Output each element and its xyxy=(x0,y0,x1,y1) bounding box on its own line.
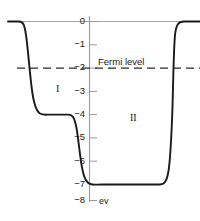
region-two-label: II xyxy=(130,113,137,123)
energy-unit-label: ev xyxy=(99,196,109,206)
y-tick-label-5: −5 xyxy=(60,132,85,142)
y-tick-label-3: −3 xyxy=(60,86,85,96)
y-tick-label-2: −2 xyxy=(60,62,85,72)
y-tick-label-0: 0 xyxy=(60,16,85,26)
region-one-label: I xyxy=(56,84,59,94)
y-tick-label-4: −4 xyxy=(60,109,85,119)
y-tick-label-7: −7 xyxy=(60,179,85,189)
potential-energy-curve xyxy=(8,22,200,185)
y-tick-label-8: −8 xyxy=(60,195,85,205)
plot-canvas xyxy=(0,0,200,221)
fermi-level-label: Fermi level xyxy=(98,57,144,67)
y-axis-ticks xyxy=(90,22,100,201)
y-tick-label-1: −1 xyxy=(60,39,85,49)
y-tick-label-6: −6 xyxy=(60,156,85,166)
energy-band-diagram: 0 −1 −2 −3 −4 −5 −6 −7 −8 Fermi level I … xyxy=(0,0,200,221)
